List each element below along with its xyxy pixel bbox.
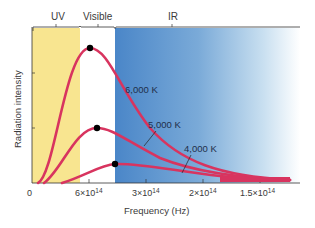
ir-label: IR (168, 11, 178, 22)
label-6000k: 6,000 K (125, 84, 158, 95)
x-tick-label-2e14: 2×1014 (189, 187, 217, 198)
x-tick-label-6e14: 6×1014 (75, 187, 103, 198)
x-axis-title: Frequency (Hz) (124, 205, 189, 216)
label-4000k: 4,000 K (184, 143, 217, 154)
visible-label: Visible (83, 11, 113, 22)
curves-tail (220, 177, 290, 182)
y-axis-title: Radiation intensity (12, 70, 23, 148)
peak-marker-4000k (112, 161, 118, 167)
ir-band (115, 28, 300, 183)
blackbody-radiation-chart: UV Visible IR 6,000 K 5,000 K 4,000 K 0 … (0, 0, 315, 228)
uv-band (32, 28, 80, 183)
peak-marker-5000k (94, 125, 100, 131)
x-tick-label-0: 0 (27, 188, 32, 198)
label-5000k: 5,000 K (148, 119, 181, 130)
uv-label: UV (51, 11, 65, 22)
peak-marker-6000k (87, 45, 93, 51)
x-tick-label-1-5e14: 1.5×1014 (240, 187, 275, 198)
x-tick-label-3e14: 3×1014 (132, 187, 160, 198)
